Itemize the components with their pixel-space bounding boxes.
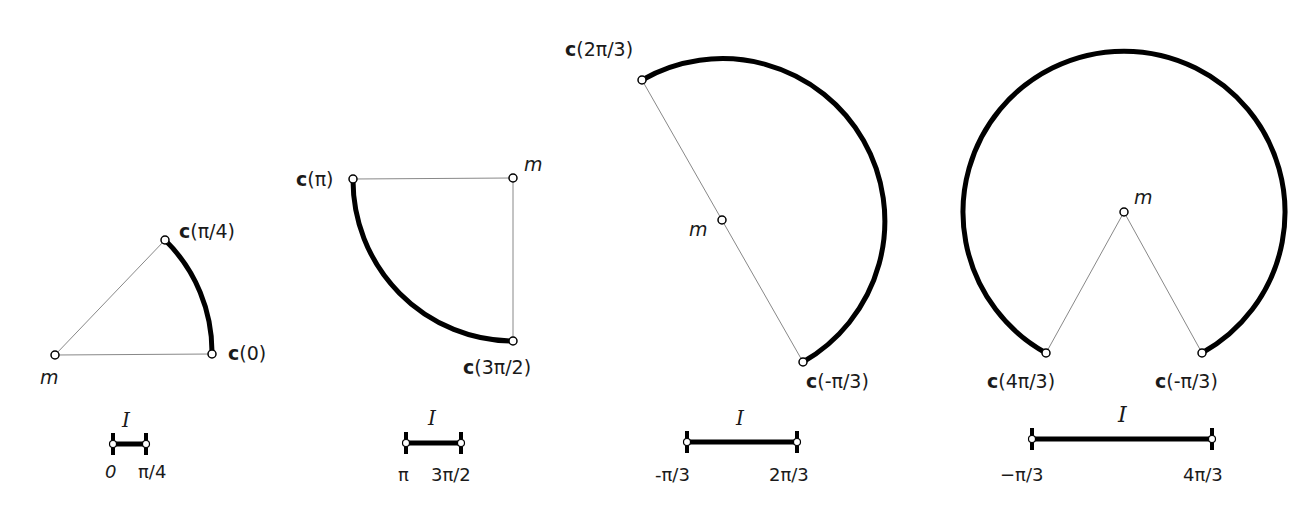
curve-argument: (0) — [239, 342, 266, 364]
curve-argument: (-π/3) — [817, 370, 869, 392]
panel-3-arc — [642, 59, 885, 362]
panel-3-interval-upper: 2π/3 — [769, 466, 809, 484]
panel-2-interval-lower: π — [398, 466, 409, 484]
panel-4-center-point — [1120, 208, 1128, 216]
curve-symbol: c — [228, 342, 239, 364]
panel-1-interval-upper: π/4 — [138, 463, 166, 481]
panel-4-radius-line — [1124, 212, 1202, 353]
diagram-canvas — [0, 0, 1316, 516]
panel-4-end-point — [1198, 349, 1206, 357]
curve-symbol: c — [463, 356, 474, 378]
panel-3-start-label: c(2π/3) — [565, 40, 633, 59]
panel-1-end-point — [161, 236, 169, 244]
panel-1-arc-group — [51, 236, 216, 359]
panel-3-center-point — [718, 216, 726, 224]
panel-4-interval-name: I — [1118, 404, 1127, 426]
panel-2-center-point — [509, 174, 517, 182]
panel-1-interval-lower: 0 — [105, 463, 116, 481]
panel-2-end-label: c(3π/2) — [463, 358, 531, 377]
panel-2-start-point — [349, 175, 357, 183]
panel-1-start-point — [208, 350, 216, 358]
curve-argument: (4π/3) — [998, 370, 1055, 392]
interval-3 — [684, 431, 801, 453]
interval-2 — [403, 432, 465, 454]
panel-4-start-point — [1042, 349, 1050, 357]
panel-1-center-point — [51, 351, 59, 359]
panel-2-interval-name: I — [428, 408, 436, 428]
panel-3-interval-lower: -π/3 — [655, 466, 690, 484]
panel-1-interval-name: I — [122, 410, 130, 430]
interval-1 — [110, 433, 150, 455]
panel-4-interval-upper: 4π/3 — [1183, 466, 1223, 484]
curve-symbol: c — [806, 370, 817, 392]
interval-4 — [1029, 428, 1216, 450]
curve-argument: (3π/2) — [474, 356, 531, 378]
panel-2-arc — [353, 179, 513, 341]
panel-3-interval-name: I — [736, 408, 744, 428]
panel-4-radius-line — [1046, 212, 1124, 353]
panel-3-arc-group — [638, 59, 885, 366]
curve-symbol: c — [565, 38, 576, 60]
panel-4-arc — [963, 51, 1285, 353]
panel-4-end-label: c(-π/3) — [1155, 372, 1218, 391]
curve-argument: (-π/3) — [1166, 370, 1218, 392]
curve-symbol: c — [296, 168, 307, 190]
curve-argument: (2π/3) — [576, 38, 633, 60]
panel-1-arc — [165, 240, 212, 354]
panel-2-start-label: c(π) — [296, 170, 334, 189]
panel-1-radius-line — [55, 240, 165, 355]
curve-symbol: c — [1155, 370, 1166, 392]
panel-2-radius-line — [353, 178, 513, 179]
panel-3-start-point — [638, 76, 646, 84]
curve-argument: (π) — [307, 168, 333, 190]
panel-2-interval-upper: 3π/2 — [431, 466, 471, 484]
curve-symbol: c — [179, 220, 190, 242]
panel-2-end-point — [509, 337, 517, 345]
panel-3-end-label: c(-π/3) — [806, 372, 869, 391]
panel-1-radius-line — [55, 354, 212, 355]
panel-2-arc-group — [349, 174, 517, 345]
panel-3-center-label: m — [689, 220, 708, 239]
panel-2-center-label: m — [524, 155, 543, 174]
panel-1-center-label: m — [40, 368, 59, 387]
panel-1-start-label: c(0) — [228, 344, 266, 363]
panel-4-start-label: c(4π/3) — [987, 372, 1055, 391]
panel-4-arc-group — [963, 51, 1285, 357]
panel-4-interval-lower: −π/3 — [1000, 466, 1043, 484]
curve-argument: (π/4) — [190, 220, 235, 242]
panel-4-center-label: m — [1134, 188, 1153, 207]
curve-symbol: c — [987, 370, 998, 392]
panel-3-end-point — [799, 358, 807, 366]
panel-1-end-label: c(π/4) — [179, 222, 235, 241]
